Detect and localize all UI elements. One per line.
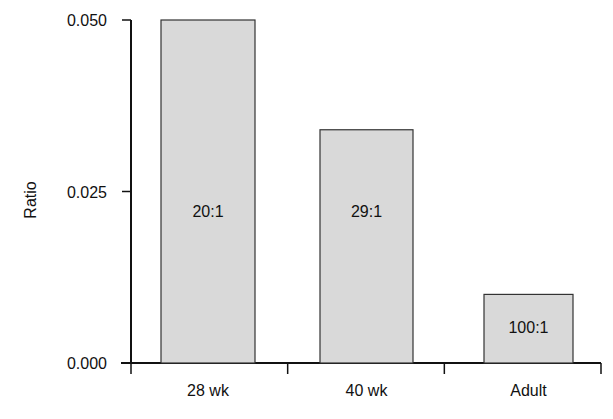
bar-40-wk: [320, 130, 413, 363]
x-axis: 28 wk40 wkAdult: [121, 363, 601, 399]
bar-chart: 0.0000.0250.050 28 wk40 wkAdult 20:129:1…: [0, 0, 613, 419]
y-axis-title: Ratio: [22, 181, 39, 218]
bar-28-wk: [161, 20, 255, 363]
y-tick-label: 0.025: [67, 184, 107, 201]
y-axis: 0.0000.0250.050: [67, 12, 131, 372]
y-tick-label: 0.050: [67, 12, 107, 29]
x-category-label: Adult: [510, 382, 547, 399]
y-tick-label: 0.000: [67, 355, 107, 372]
x-category-label: 28 wk: [187, 382, 230, 399]
bars: 20:129:1100:1: [161, 20, 573, 363]
x-category-label: 40 wk: [346, 382, 389, 399]
bar-ratio-label: 100:1: [508, 319, 548, 336]
bar-ratio-label: 29:1: [351, 203, 382, 220]
bar-ratio-label: 20:1: [192, 203, 223, 220]
